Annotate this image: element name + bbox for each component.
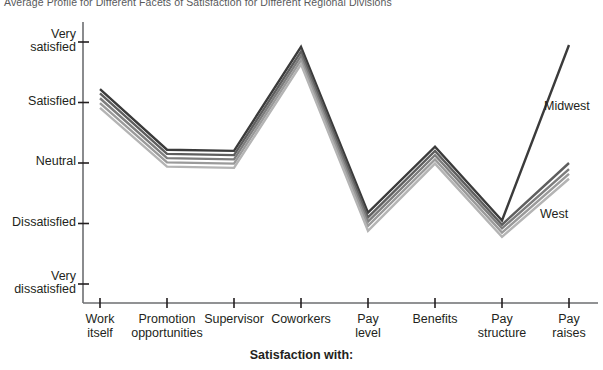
y-axis-tick-label: Verydissatisfied [4,270,76,297]
x-axis-caption: Satisfaction with: [0,348,603,362]
y-axis-tick-label: Dissatisfied [4,216,76,230]
y-axis-tick-label: Neutral [4,155,76,169]
series-label-midwest: Midwest [544,99,590,113]
chart-series-group [100,45,569,237]
chart-axes [78,22,598,308]
y-axis-tick-label: Verysatisfied [4,28,76,55]
series-label-west: West [540,207,568,221]
y-axis-tick-label: Satisfied [4,95,76,109]
x-axis-category-label: Payraises [523,312,603,340]
chart-root: Average Profile for Different Facets of … [0,0,603,370]
